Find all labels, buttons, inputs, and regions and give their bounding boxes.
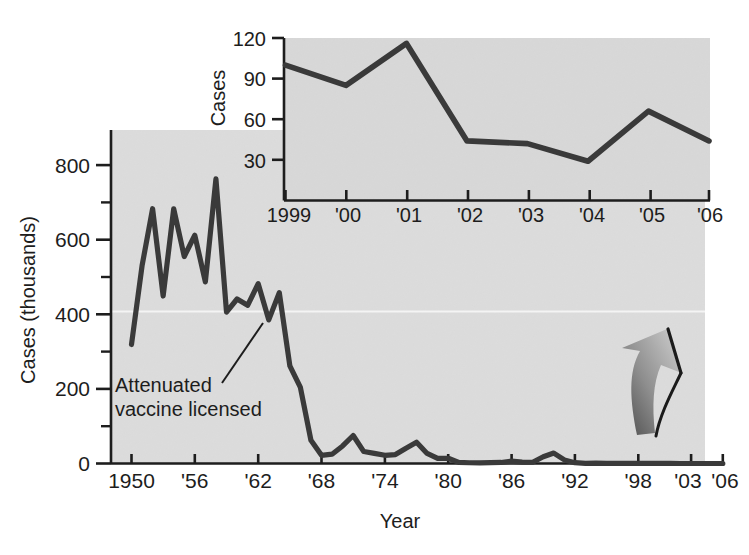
inset-x-tick-06: '06 <box>697 204 723 226</box>
main-y-tick-400: 400 <box>55 303 90 326</box>
inset-y-tick-30: 30 <box>244 150 266 172</box>
main-x-tick-1950: 1950 <box>108 469 155 492</box>
inset-x-tick-03: '03 <box>518 204 544 226</box>
inset-x-tick-05: '05 <box>639 204 665 226</box>
main-x-tick-56: '56 <box>181 469 208 492</box>
annotation-line-2: vaccine licensed <box>115 398 262 420</box>
inset-y-tick-90: 90 <box>244 68 266 90</box>
main-x-tick-62: '62 <box>245 469 272 492</box>
inset-y-tick-120: 120 <box>233 28 266 50</box>
inset-y-tick-60: 60 <box>244 109 266 131</box>
inset-y-axis-title: Cases <box>207 70 229 127</box>
main-x-tick-06: '06 <box>711 469 738 492</box>
main-x-tick-86: '86 <box>498 469 525 492</box>
main-y-tick-200: 200 <box>55 377 90 400</box>
inset-plot-texture <box>284 38 710 200</box>
main-y-tick-600: 600 <box>55 228 90 251</box>
inset-x-tick-01: '01 <box>396 204 422 226</box>
inset-x-tick-00: '00 <box>335 204 361 226</box>
main-x-tick-68: '68 <box>308 469 335 492</box>
measles-cases-figure: 0 200 400 600 800 Cases (thousands) 1950… <box>0 0 749 555</box>
inset-x-tick-1999: 1999 <box>267 204 312 226</box>
main-x-tick-03: '03 <box>674 469 701 492</box>
main-y-axis-title: Cases (thousands) <box>17 216 39 384</box>
inset-x-tick-04: '04 <box>579 204 605 226</box>
inset-x-tick-02: '02 <box>457 204 483 226</box>
main-x-axis-title: Year <box>380 510 421 532</box>
main-x-tick-98: '98 <box>625 469 652 492</box>
main-y-tick-0: 0 <box>78 452 90 475</box>
main-x-tick-80: '80 <box>435 469 462 492</box>
chart-canvas: 0 200 400 600 800 Cases (thousands) 1950… <box>0 0 749 555</box>
main-x-tick-74: '74 <box>371 469 399 492</box>
annotation-line-1: Attenuated <box>115 374 212 396</box>
main-y-tick-800: 800 <box>55 154 90 177</box>
main-x-tick-92: '92 <box>561 469 588 492</box>
